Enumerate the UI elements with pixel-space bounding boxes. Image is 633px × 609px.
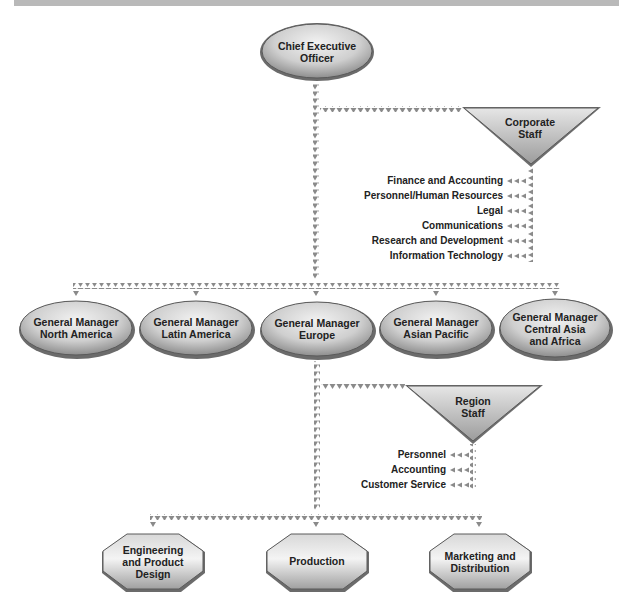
region-function-arrows — [450, 453, 469, 488]
ceo-vertical-connector — [313, 83, 319, 279]
ceo-node — [260, 23, 374, 81]
region-staff-node — [405, 385, 543, 444]
corporate-function-it: Information Technology — [390, 250, 503, 262]
gm-node-north-america — [19, 301, 135, 359]
department-drop-arrows — [150, 522, 482, 527]
corporate-functions-connector — [527, 168, 533, 262]
corporate-staff-node — [462, 107, 601, 167]
region-function-personnel: Personnel — [398, 449, 446, 461]
gm-bus-connector — [73, 283, 560, 289]
gm-node-latin-america — [139, 301, 255, 359]
gm-node-central-asia-africa — [499, 299, 613, 361]
region-function-customer-service: Customer Service — [361, 479, 446, 491]
corporate-staff-connector — [320, 106, 462, 112]
corporate-function-legal: Legal — [477, 205, 503, 217]
dept-node-marketing — [429, 534, 532, 592]
corporate-function-personnel: Personnel/Human Resources — [364, 190, 503, 202]
corporate-function-communications: Communications — [422, 220, 503, 232]
org-chart-diagram — [0, 0, 633, 609]
corporate-function-rnd: Research and Development — [372, 235, 503, 247]
region-function-accounting: Accounting — [391, 464, 446, 476]
europe-vertical-connector — [314, 361, 320, 511]
gm-node-asian-pacific — [379, 301, 495, 359]
corporate-function-finance: Finance and Accounting — [387, 175, 503, 187]
corporate-function-arrows — [507, 179, 526, 259]
region-functions-connector — [470, 444, 476, 490]
dept-node-production — [266, 534, 369, 592]
gm-node-europe — [260, 302, 376, 360]
gm-drop-arrows — [73, 291, 558, 296]
dept-node-engineering — [102, 534, 205, 592]
region-staff-connector — [321, 384, 405, 390]
department-bus-connector — [150, 514, 482, 520]
